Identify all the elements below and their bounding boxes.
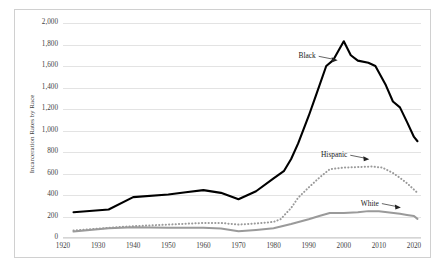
x-axis-tick: 1960 bbox=[196, 243, 210, 250]
x-axis-tick: 2020 bbox=[407, 243, 421, 250]
series-label-white: White bbox=[361, 200, 379, 207]
series-label-black: Black bbox=[298, 53, 315, 60]
x-axis-tick: 1920 bbox=[56, 243, 70, 250]
chart-container: Incarceration Rates by Race 020040060080… bbox=[14, 9, 431, 258]
x-axis-tick: 1980 bbox=[266, 243, 280, 250]
y-axis-tick: 400 bbox=[47, 191, 58, 198]
x-axis-tick: 1930 bbox=[91, 243, 105, 250]
y-axis-tick: 600 bbox=[47, 170, 58, 177]
y-axis-tick: 1,400 bbox=[42, 84, 58, 91]
gridline bbox=[63, 238, 421, 239]
y-axis-tick: 1,600 bbox=[42, 62, 58, 69]
y-axis-tick: 1,800 bbox=[42, 41, 58, 48]
x-axis-tick: 2010 bbox=[372, 243, 386, 250]
y-axis-tick: 1,000 bbox=[42, 127, 58, 134]
y-axis-tick: 800 bbox=[47, 148, 58, 155]
arrow-icon-hispanic bbox=[350, 155, 369, 161]
y-axis-title: Incarceration Rates by Race bbox=[28, 94, 36, 173]
series-line-black bbox=[74, 41, 418, 212]
y-axis-tick: 2,000 bbox=[42, 19, 58, 26]
x-axis-tick: 2000 bbox=[337, 243, 351, 250]
x-axis-tick: 1950 bbox=[161, 243, 175, 250]
plot-area: 02004006008001,0001,2001,4001,6001,8002,… bbox=[63, 23, 421, 238]
x-axis-tick: 1940 bbox=[126, 243, 140, 250]
series-label-hispanic: Hispanic bbox=[321, 152, 347, 159]
series-line-white bbox=[74, 211, 418, 231]
y-axis-tick: 1,200 bbox=[42, 105, 58, 112]
x-axis-tick: 1970 bbox=[231, 243, 245, 250]
x-axis-tick: 1990 bbox=[301, 243, 315, 250]
arrow-icon-white bbox=[382, 204, 401, 210]
y-axis-tick: 0 bbox=[54, 234, 58, 241]
y-axis-tick: 200 bbox=[47, 213, 58, 220]
